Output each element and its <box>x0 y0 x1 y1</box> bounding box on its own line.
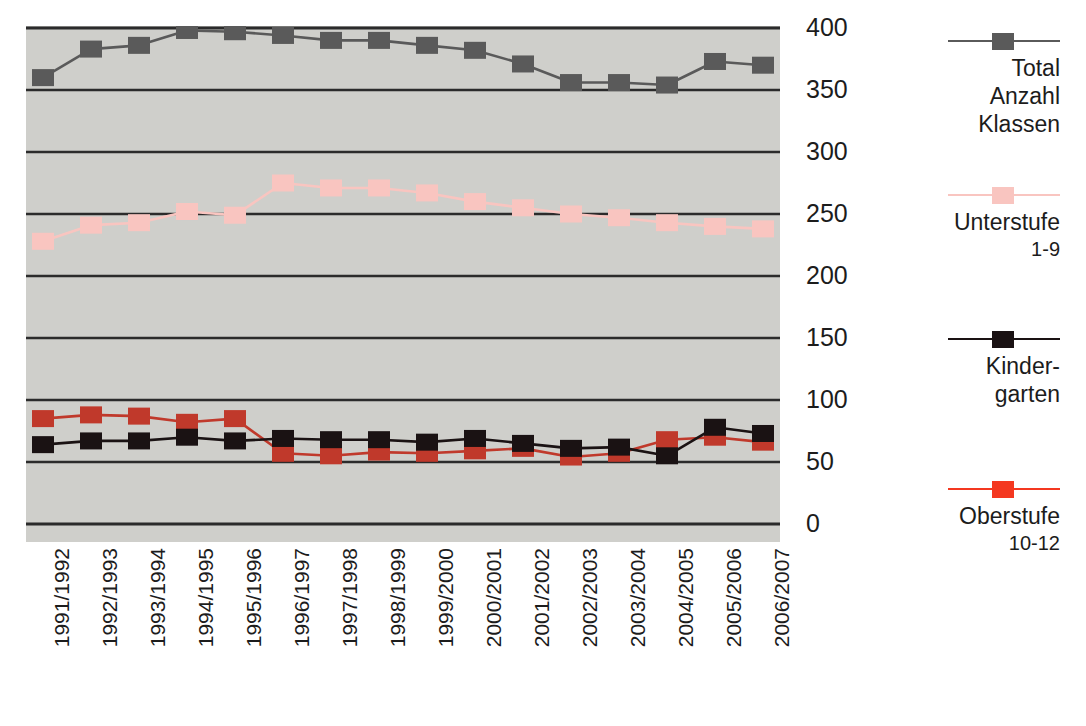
data-point-marker <box>752 220 774 237</box>
data-point-marker <box>416 184 438 201</box>
data-point-marker <box>512 199 534 216</box>
x-tick-label-2003-2004: 2003/2004 <box>627 548 648 688</box>
x-tick-label-2005-2006: 2005/2006 <box>723 548 744 688</box>
legend-label-unterstufe-0: Unterstufe <box>900 208 1076 236</box>
data-point-marker <box>32 233 54 250</box>
series-line <box>43 30 763 85</box>
data-point-marker <box>80 432 102 449</box>
legend-entry-total[interactable]: TotalAnzahlKlassen <box>900 28 1076 138</box>
data-point-marker <box>176 429 198 446</box>
y-tick-label-300: 300 <box>806 139 848 164</box>
legend-marker-icon <box>992 331 1014 348</box>
legend-label-oberstufe-0: Oberstufe <box>900 502 1076 530</box>
data-point-marker <box>176 414 198 431</box>
legend-swatch-kindergarten <box>900 326 1076 352</box>
x-tick-label-1993-1994: 1993/1994 <box>147 548 168 688</box>
data-point-marker <box>560 440 582 457</box>
data-point-marker <box>272 27 294 44</box>
legend-marker-icon <box>992 33 1014 50</box>
data-point-marker <box>128 37 150 54</box>
data-point-marker <box>512 435 534 452</box>
data-point-marker <box>272 430 294 447</box>
legend-label-kindergarten-1: garten <box>900 380 1076 408</box>
x-tick-label-1992-1993: 1992/1993 <box>99 548 120 688</box>
data-point-marker <box>560 74 582 91</box>
data-point-marker <box>464 430 486 447</box>
x-tick-label-2002-2003: 2002/2003 <box>579 548 600 688</box>
data-point-marker <box>416 37 438 54</box>
data-point-marker <box>368 431 390 448</box>
x-tick-label-2001-2002: 2001/2002 <box>531 548 552 688</box>
data-point-marker <box>272 175 294 192</box>
x-tick-label-2004-2005: 2004/2005 <box>675 548 696 688</box>
data-point-marker <box>128 408 150 425</box>
x-tick-label-1998-1999: 1998/1999 <box>387 548 408 688</box>
legend-sublabel-unterstufe: 1-9 <box>900 236 1076 262</box>
y-tick-label-100: 100 <box>806 387 848 412</box>
data-point-marker <box>80 41 102 58</box>
data-point-marker <box>176 203 198 220</box>
legend-sublabel-oberstufe: 10-12 <box>900 530 1076 556</box>
data-point-marker <box>128 214 150 231</box>
data-point-marker <box>176 26 198 39</box>
series-line <box>43 415 763 457</box>
x-tick-label-1991-1992: 1991/1992 <box>51 548 72 688</box>
data-point-marker <box>320 32 342 49</box>
y-tick-label-250: 250 <box>806 201 848 226</box>
data-point-marker <box>224 26 246 40</box>
data-point-marker <box>608 209 630 226</box>
x-axis-tick-labels: 1991/19921992/19931993/19941994/19951995… <box>26 548 780 726</box>
series-unterstufe-1-9 <box>32 175 774 250</box>
plot-canvas <box>26 26 780 542</box>
data-point-marker <box>656 431 678 448</box>
data-point-marker <box>752 425 774 442</box>
legend-swatch-total <box>900 28 1076 54</box>
legend-label-total-0: Total <box>900 54 1076 82</box>
data-point-marker <box>416 434 438 451</box>
y-tick-label-50: 50 <box>806 449 834 474</box>
x-tick-label-1996-1997: 1996/1997 <box>291 548 312 688</box>
data-point-marker <box>320 447 342 464</box>
legend-label-kindergarten-0: Kinder- <box>900 352 1076 380</box>
x-tick-label-2000-2001: 2000/2001 <box>483 548 504 688</box>
data-point-marker <box>752 57 774 74</box>
legend-swatch-unterstufe <box>900 182 1076 208</box>
data-point-marker <box>224 410 246 427</box>
data-point-marker <box>128 432 150 449</box>
data-point-marker <box>368 32 390 49</box>
plot-area <box>26 26 780 542</box>
data-point-marker <box>656 447 678 464</box>
x-tick-label-2006-2007: 2006/2007 <box>771 548 792 688</box>
data-point-marker <box>464 193 486 210</box>
legend-marker-icon <box>992 187 1014 204</box>
data-point-marker <box>368 179 390 196</box>
data-point-marker <box>608 439 630 456</box>
data-point-marker <box>224 432 246 449</box>
data-point-marker <box>32 410 54 427</box>
x-tick-label-1994-1995: 1994/1995 <box>195 548 216 688</box>
chart-legend: TotalAnzahlKlassenUnterstufe1-9Kinder-ga… <box>900 14 1076 544</box>
y-tick-label-150: 150 <box>806 325 848 350</box>
data-point-marker <box>32 69 54 86</box>
series-line <box>43 183 763 241</box>
data-point-marker <box>704 53 726 70</box>
legend-swatch-oberstufe <box>900 476 1076 502</box>
y-axis-tick-labels: 400350300250200150100500 <box>806 0 896 560</box>
data-point-marker <box>272 445 294 462</box>
legend-marker-icon <box>992 481 1014 498</box>
legend-entry-kindergarten[interactable]: Kinder-garten <box>900 326 1076 408</box>
legend-label-total-1: Anzahl <box>900 82 1076 110</box>
x-tick-label-1997-1998: 1997/1998 <box>339 548 360 688</box>
legend-entry-unterstufe[interactable]: Unterstufe1-9 <box>900 182 1076 262</box>
data-point-marker <box>656 77 678 94</box>
legend-entry-oberstufe[interactable]: Oberstufe10-12 <box>900 476 1076 556</box>
data-point-marker <box>32 436 54 453</box>
data-point-marker <box>80 406 102 423</box>
y-tick-label-350: 350 <box>806 77 848 102</box>
data-point-marker <box>608 74 630 91</box>
series-total-anzahl-klassen <box>32 26 774 94</box>
data-point-marker <box>704 218 726 235</box>
y-tick-label-200: 200 <box>806 263 848 288</box>
data-point-marker <box>560 206 582 223</box>
data-point-marker <box>704 419 726 436</box>
